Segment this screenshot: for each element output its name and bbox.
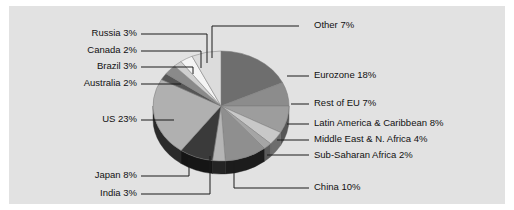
label-other: Other 7% xyxy=(314,19,354,30)
label-canada: Canada 2% xyxy=(87,44,137,55)
label-india: India 3% xyxy=(100,187,137,198)
label-rest-of-eu: Rest of EU 7% xyxy=(314,97,376,108)
label-us: US 23% xyxy=(102,113,137,124)
pie-slice-side-india xyxy=(212,161,225,174)
label-sub-saharan: Sub-Saharan Africa 2% xyxy=(314,149,413,160)
label-japan: Japan 8% xyxy=(95,169,137,180)
label-middle-east: Middle East & N. Africa 4% xyxy=(314,133,428,144)
label-russia: Russia 3% xyxy=(92,27,137,38)
label-china: China 10% xyxy=(314,181,360,192)
label-latin-america: Latin America & Caribbean 8% xyxy=(314,117,443,128)
pie-slice-group xyxy=(153,51,289,174)
pie-chart-panel: Russia 3% Canada 2% Brazil 3% Australia … xyxy=(9,6,505,204)
label-brazil: Brazil 3% xyxy=(97,60,137,71)
label-eurozone: Eurozone 18% xyxy=(314,69,376,80)
pie-chart-graphic xyxy=(9,6,505,204)
screenshot-root: Russia 3% Canada 2% Brazil 3% Australia … xyxy=(0,0,514,210)
label-australia: Australia 2% xyxy=(84,77,137,88)
